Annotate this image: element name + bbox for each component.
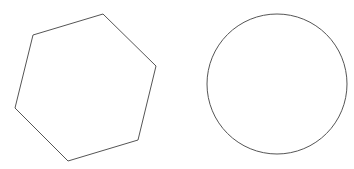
hexagon-shape [15, 14, 156, 161]
circle-shape [207, 14, 347, 154]
drawing-canvas [0, 0, 354, 169]
